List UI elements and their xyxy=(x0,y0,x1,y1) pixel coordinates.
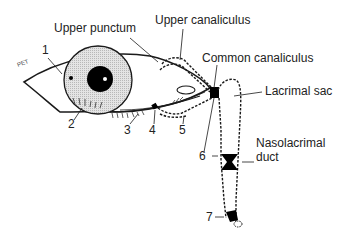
common-canaliculus xyxy=(210,87,219,98)
valve-hourglass xyxy=(221,154,238,170)
label-common-canaliculus: Common canaliculus xyxy=(202,52,313,64)
number-2: 2 xyxy=(68,118,75,130)
number-3: 3 xyxy=(124,124,131,136)
number-4: 4 xyxy=(149,124,156,136)
label-upper-canaliculus: Upper canaliculus xyxy=(155,14,250,26)
label-upper-punctum: Upper punctum xyxy=(54,22,136,34)
label-nasolacrimal-duct-line1: Nasolacrimal xyxy=(256,137,325,149)
number-1: 1 xyxy=(42,44,49,56)
valve-bottom xyxy=(226,210,238,222)
lacrimal-apparatus-diagram xyxy=(0,0,352,245)
label-nasolacrimal-duct-line2: duct xyxy=(256,151,279,163)
label-lacrimal-sac: Lacrimal sac xyxy=(265,85,332,97)
caruncle xyxy=(177,86,195,94)
number-7: 7 xyxy=(206,211,213,223)
number-6: 6 xyxy=(199,150,206,162)
number-5: 5 xyxy=(179,124,186,136)
pupil xyxy=(87,66,113,92)
